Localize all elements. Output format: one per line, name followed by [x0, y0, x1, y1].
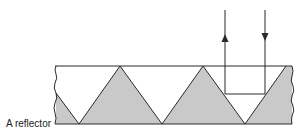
reflector-diagram: A reflector [0, 0, 304, 131]
prism-fill [56, 66, 292, 124]
arrow-down-icon [262, 33, 269, 41]
light-rays [225, 10, 265, 94]
reflector-label: A reflector [6, 118, 52, 129]
arrow-up-icon [222, 34, 229, 42]
